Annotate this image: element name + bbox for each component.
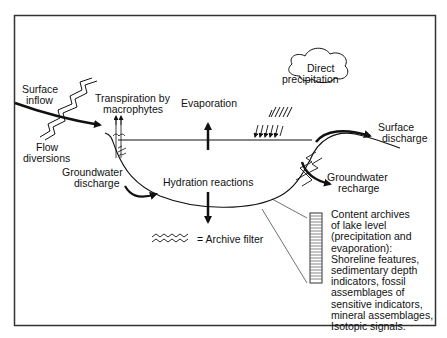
label-groundwater-recharge: Groundwater recharge (327, 171, 391, 194)
label-flow-diversions: Flow diversions (23, 141, 70, 164)
label-groundwater-discharge: Groundwater discharge (62, 166, 126, 189)
surface-inflow-arrow (15, 103, 100, 125)
label-surface-inflow: Surface inflow (22, 83, 61, 106)
label-hydration-reactions: Hydration reactions (163, 176, 253, 188)
leader-line-top (272, 199, 307, 218)
lake-diagram: Surface inflow Flow diversions Transpira… (0, 0, 447, 338)
label-archive-filter: = Archive filter (197, 233, 264, 245)
leader-line-bottom (262, 209, 307, 283)
sediment-core-icon (310, 213, 322, 283)
label-evaporation: Evaporation (181, 97, 237, 109)
rain-hatch-icon (269, 107, 292, 117)
precipitation-arrows (255, 125, 283, 137)
plant-icon (113, 118, 126, 158)
zigzag-filter-icon (152, 234, 188, 242)
label-surface-discharge: Surface discharge (378, 121, 428, 144)
label-transpiration: Transpiration by macrophytes (95, 92, 173, 115)
label-content-archives: Content archivesof lake level(precipitat… (331, 208, 433, 332)
